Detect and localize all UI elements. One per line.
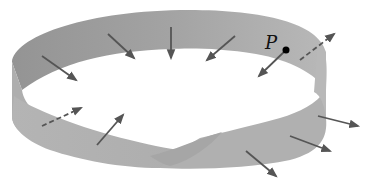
strip-back-band bbox=[12, 10, 326, 90]
mobius-strip-figure: P bbox=[0, 0, 367, 179]
mobius-strip-diagram: P bbox=[0, 0, 367, 179]
point-p-label: P bbox=[264, 32, 278, 53]
point-p-marker bbox=[283, 47, 290, 54]
